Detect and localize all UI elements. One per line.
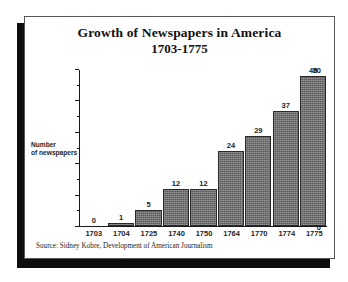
- plot-area: Number of newspapers 01020304050 0151212…: [79, 70, 327, 227]
- bar-slot: 24: [218, 70, 244, 226]
- bar-slot: 5: [135, 70, 161, 226]
- y-axis-minor-tick: [77, 148, 79, 149]
- y-axis-minor-tick: [77, 179, 79, 180]
- y-axis-tick: [75, 69, 79, 70]
- y-axis-title-line-2: of newspapers: [31, 149, 87, 158]
- x-axis-tick-label: 1770: [245, 229, 273, 238]
- x-axis-tick-label: 1775: [301, 229, 329, 238]
- bar-slot: 29: [245, 70, 271, 226]
- bar-value-label: 24: [227, 141, 235, 150]
- bar[interactable]: [273, 111, 299, 226]
- bar-value-label: 37: [282, 101, 290, 110]
- bar-value-label: 29: [254, 126, 262, 135]
- x-axis-tick-label: 1750: [190, 229, 218, 238]
- bar-value-label: 5: [147, 200, 151, 209]
- scanned-page: Growth of Newspapers in America 1703-177…: [0, 0, 348, 282]
- y-axis-title: Number of newspapers: [31, 140, 87, 157]
- y-axis-tick: [75, 163, 79, 164]
- y-axis-tick: [75, 195, 79, 196]
- bar-value-label: 12: [199, 179, 207, 188]
- y-axis-tick: [75, 132, 79, 133]
- bar[interactable]: [108, 223, 134, 226]
- y-axis-minor-tick: [77, 116, 79, 117]
- x-axis-tick-label: 1740: [163, 229, 191, 238]
- x-axis-tick-label: 1764: [218, 229, 246, 238]
- y-axis-minor-tick: [77, 210, 79, 211]
- bar[interactable]: [245, 136, 271, 226]
- y-axis-minor-tick: [77, 85, 79, 86]
- bar-value-label: 48: [309, 66, 317, 75]
- y-axis-tick: [75, 100, 79, 101]
- chart-title: Growth of Newspapers in America: [25, 25, 334, 41]
- bar-slot: 12: [190, 70, 216, 226]
- bar-slot: 12: [163, 70, 189, 226]
- chart-title-block: Growth of Newspapers in America 1703-177…: [25, 25, 334, 56]
- x-axis-tick-label: 1703: [80, 229, 108, 238]
- x-axis-tick-labels: 170317041725174017501764177017741775: [80, 229, 328, 238]
- x-axis-line: [79, 226, 327, 227]
- bar[interactable]: [135, 210, 161, 226]
- bar[interactable]: [218, 151, 244, 226]
- bar-value-label: 0: [92, 216, 96, 225]
- chart-subtitle: 1703-1775: [25, 41, 334, 56]
- bar-slot: 48: [300, 70, 326, 226]
- bar[interactable]: [190, 189, 216, 226]
- chart-panel: Growth of Newspapers in America 1703-177…: [24, 16, 335, 259]
- bar-slot: 1: [108, 70, 134, 226]
- x-axis-tick-label: 1704: [108, 229, 136, 238]
- bar-series: 015121224293748: [80, 70, 327, 226]
- bar-slot: 0: [81, 70, 107, 226]
- bar-value-label: 12: [172, 179, 180, 188]
- x-axis-tick-label: 1774: [273, 229, 301, 238]
- bar[interactable]: [163, 189, 189, 226]
- y-axis-tick: [75, 226, 79, 227]
- bar-slot: 37: [273, 70, 299, 226]
- x-axis-tick-label: 1725: [135, 229, 163, 238]
- bar[interactable]: [300, 76, 326, 226]
- source-note: Source: Sidney Kobre, Development of Ame…: [36, 242, 213, 250]
- bar-value-label: 1: [119, 213, 123, 222]
